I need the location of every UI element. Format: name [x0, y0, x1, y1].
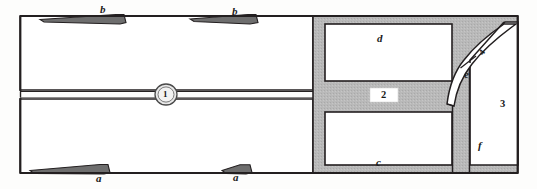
- callout-a-right: a: [233, 172, 239, 183]
- left-upper-chamber-outline: [20, 16, 313, 90]
- callout-1: 1: [163, 90, 168, 99]
- callout-c: c: [376, 157, 381, 168]
- chamber-d: [325, 24, 452, 81]
- callout-b-right: b: [232, 6, 238, 17]
- schematic-figure: b b a a d c f e 1 2 3 4: [0, 0, 537, 189]
- callout-e: e: [464, 69, 469, 80]
- chamber-c: [325, 112, 452, 165]
- callout-d: d: [377, 33, 383, 44]
- callout-f: f: [478, 140, 482, 151]
- callout-2: 2: [381, 90, 386, 101]
- callout-3: 3: [500, 99, 505, 110]
- callout-a-left: a: [96, 173, 102, 184]
- callout-b-left: b: [100, 4, 106, 15]
- schematic-drawing: [0, 0, 537, 189]
- right-assembly-group: [313, 16, 518, 173]
- left-lower-chamber-outline: [20, 99, 313, 173]
